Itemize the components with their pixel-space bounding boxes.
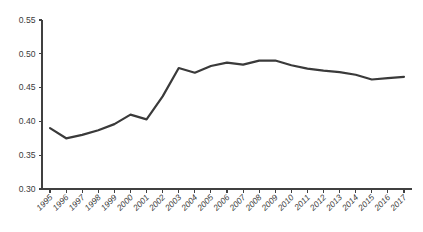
data-series	[50, 61, 404, 139]
y-axis-tick-label: 0.50	[19, 49, 36, 59]
x-axis-tick-label: 1996	[50, 192, 70, 212]
x-axis-tick-label: 1999	[99, 192, 119, 212]
x-axis-tick-label: 2005	[194, 192, 215, 213]
series-line	[50, 61, 404, 139]
y-axis-tick-label: 0.35	[19, 150, 36, 160]
x-axis-tick-labels: 1995199619971998199920002001200220032004…	[34, 192, 408, 213]
x-axis-tick-label: 2017	[387, 192, 408, 213]
x-axis-tick-label: 2011	[291, 192, 312, 213]
x-axis-tick-label: 2001	[130, 192, 151, 213]
x-axis-tick-label: 2013	[323, 192, 344, 213]
y-axis-tick-label: 0.45	[19, 82, 36, 92]
line-chart: 1995199619971998199920002001200220032004…	[0, 0, 423, 232]
x-axis-tick-label: 1997	[66, 192, 86, 212]
x-axis	[42, 189, 412, 193]
y-axis-tick-label: 0.40	[19, 116, 36, 126]
x-axis-tick-label: 2002	[146, 192, 167, 213]
x-axis-tick-label: 2012	[307, 192, 328, 213]
y-axis	[39, 20, 43, 189]
y-axis-tick-label: 0.30	[19, 184, 36, 194]
x-axis-tick-label: 2000	[114, 192, 135, 213]
x-axis-tick-label: 2009	[259, 192, 280, 213]
x-axis-tick-label: 2014	[339, 192, 360, 213]
x-axis-tick-label: 2016	[371, 192, 392, 213]
x-axis-tick-label: 1998	[82, 192, 102, 212]
y-axis-tick-labels: 0.300.350.400.450.500.55	[19, 15, 36, 194]
chart-canvas: 1995199619971998199920002001200220032004…	[0, 0, 423, 232]
x-axis-tick-label: 2004	[178, 192, 199, 213]
x-axis-tick-label: 2015	[355, 192, 376, 213]
x-axis-tick-label: 1995	[34, 192, 54, 212]
x-axis-tick-label: 2007	[227, 192, 248, 213]
y-axis-tick-label: 0.55	[19, 15, 36, 25]
x-axis-tick-label: 2008	[243, 192, 264, 213]
x-axis-tick-label: 2010	[275, 192, 296, 213]
x-axis-tick-label: 2006	[210, 192, 231, 213]
x-axis-tick-label: 2003	[162, 192, 183, 213]
